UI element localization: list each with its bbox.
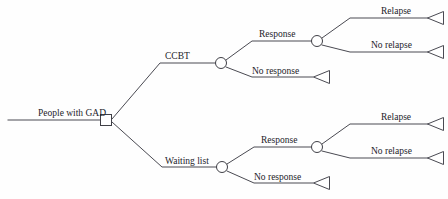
chance-node-ccbt[interactable] — [216, 58, 227, 69]
chance-node-wl-response[interactable] — [312, 142, 323, 153]
label-ccbt-no-response: No response — [252, 66, 299, 76]
label-ccbt-no-relapse: No relapse — [371, 40, 412, 50]
terminal-node-wl-relapse[interactable] — [428, 118, 444, 131]
label-arm-waiting-list: Waiting list — [165, 156, 209, 166]
label-wl-no-response: No response — [254, 172, 301, 182]
label-arm-ccbt: CCBT — [165, 51, 190, 61]
terminal-node-wl-no-response[interactable] — [314, 177, 330, 190]
chance-node-waiting-list[interactable] — [217, 162, 228, 173]
terminal-node-ccbt-no-relapse[interactable] — [428, 46, 444, 59]
branch-ccbt-relapse — [322, 18, 428, 38]
terminal-node-wl-no-relapse[interactable] — [428, 152, 444, 165]
label-wl-relapse: Relapse — [381, 112, 411, 122]
label-root: People with GAD — [38, 108, 106, 118]
branch-wl-relapse — [322, 124, 428, 144]
chance-node-ccbt-response[interactable] — [312, 36, 323, 47]
branch-ccbt — [112, 63, 220, 119]
label-wl-response: Response — [261, 135, 297, 145]
branch-wl-response — [227, 147, 316, 164]
branch-ccbt-response — [226, 41, 316, 60]
decision-tree-diagram: People with GAD CCBT Waiting list Respon… — [0, 0, 448, 199]
label-ccbt-response: Response — [259, 29, 295, 39]
decision-tree-canvas: People with GAD CCBT Waiting list Respon… — [0, 0, 448, 199]
terminal-node-ccbt-relapse[interactable] — [428, 12, 444, 25]
label-ccbt-relapse: Relapse — [381, 6, 411, 16]
label-wl-no-relapse: No relapse — [371, 146, 412, 156]
terminal-node-ccbt-no-response[interactable] — [314, 71, 330, 84]
